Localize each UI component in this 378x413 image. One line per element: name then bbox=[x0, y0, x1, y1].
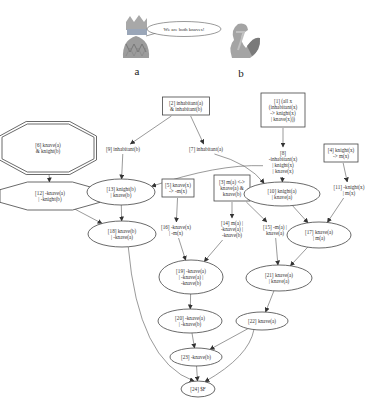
node-16: [16] -knave(x)| -m(x) bbox=[161, 224, 191, 237]
edge-n17-n21 bbox=[290, 247, 307, 266]
jester-icon bbox=[123, 15, 149, 58]
edge-n21-n22 bbox=[266, 291, 274, 312]
proof-diagram: a We are both knaves! b [1] (all x(inhab… bbox=[0, 0, 378, 413]
edge-n16-n19 bbox=[179, 238, 186, 260]
node-12: [12] -knave(a)| -knight(b) bbox=[0, 182, 100, 210]
nodes: [1] (all x(inhabitant(x)-> knight(x)| kn… bbox=[0, 93, 365, 397]
node-2: [2] inhabitant(a)& inhabitant(b) bbox=[163, 97, 210, 115]
duck-icon bbox=[230, 24, 260, 58]
edge-n12-n18 bbox=[73, 208, 102, 223]
edge-n2-n9 bbox=[130, 116, 171, 144]
node-label-line: | knave(a) bbox=[269, 278, 290, 285]
node-10: [10] knight(a)| knave(a) bbox=[244, 182, 320, 206]
node-label-line: [22] knave(a) bbox=[248, 318, 276, 325]
node-label-line: [7] inhabitant(a) bbox=[189, 146, 223, 153]
edge-n20-n23 bbox=[192, 333, 195, 348]
node-1: [1] (all x(inhabitant(x)-> knight(x)| kn… bbox=[261, 93, 305, 127]
node-label-line: | m(x) bbox=[343, 190, 356, 197]
node-8: [8]-inhabitant(x)| knight(x)| knave(x) bbox=[269, 150, 298, 176]
node-label-line: | m(a) bbox=[313, 235, 325, 242]
node-label-line: | knave(b) bbox=[111, 192, 132, 199]
edge-n15-n21 bbox=[276, 238, 278, 265]
character-a-label: a bbox=[135, 65, 140, 77]
node-21: [21] knave(a)| knave(a) bbox=[246, 265, 312, 291]
node-9: [9] inhabitant(b) bbox=[106, 146, 140, 153]
node-22: [22] knave(a) bbox=[236, 312, 288, 330]
edge-n22-n23 bbox=[210, 329, 248, 350]
node-13: [13] knight(b)| knave(b) bbox=[87, 179, 155, 205]
edge-n11-n17 bbox=[327, 198, 343, 222]
node-4: [4] knight(x)-> m(x) bbox=[324, 144, 358, 162]
edge-n14-n19 bbox=[204, 240, 222, 262]
node-label-line: & inhabitant(b) bbox=[170, 106, 202, 113]
speech-bubble-text: We are both knaves! bbox=[164, 27, 205, 32]
node-label-line: -> -m(x) bbox=[169, 188, 187, 195]
edge-n5-n16 bbox=[176, 198, 177, 222]
node-label-line: [9] inhabitant(b) bbox=[106, 146, 140, 153]
node-label-line: | knave(a) bbox=[272, 194, 293, 201]
node-label-line: knave(b) bbox=[223, 191, 242, 198]
node-6: [6] knave(a)& knight(b) bbox=[0, 122, 97, 175]
node-15: [15] -m(a) |knave(a) bbox=[263, 224, 287, 237]
edge-n10-n17 bbox=[292, 206, 308, 223]
node-label-line: | -knight(b) bbox=[38, 196, 62, 203]
edge-n9-n13 bbox=[122, 154, 123, 179]
node-5: [5] knave(x)-> -m(x) bbox=[162, 179, 194, 197]
character-b-label: b bbox=[238, 67, 244, 79]
node-label-line: | -knave(a) bbox=[111, 234, 133, 241]
node-label-line: -knave(b) bbox=[181, 280, 201, 287]
node-label-line: & knight(b) bbox=[36, 148, 61, 155]
node-label-line: | knave(x))) bbox=[271, 116, 295, 123]
edge-n23-n24 bbox=[197, 366, 198, 381]
node-17: [17] knave(a)| m(a) bbox=[287, 222, 351, 248]
node-label-line: -knave(b) bbox=[222, 232, 242, 239]
node-label-line: knave(a) bbox=[266, 230, 284, 237]
edge-n2-n7 bbox=[191, 116, 204, 144]
character-a: a bbox=[123, 15, 149, 77]
node-23: [23] -knave(b) bbox=[170, 348, 222, 366]
node-24: [24] $F bbox=[181, 381, 215, 397]
node-19: [19] -knave(a)| -knave(a) |-knave(b) bbox=[159, 260, 223, 294]
node-3: [3] m(a) <->knave(a) &knave(b) bbox=[214, 175, 250, 201]
node-18: [18] knave(b)| -knave(a) bbox=[88, 221, 156, 247]
node-label-line: [23] -knave(b) bbox=[181, 354, 211, 361]
edge-n4-n11 bbox=[343, 163, 347, 182]
node-label-line: | -m(x) bbox=[169, 230, 183, 237]
character-b: b bbox=[230, 24, 260, 79]
node-label-line: | knave(x) bbox=[273, 168, 294, 175]
node-label-line: [24] $F bbox=[190, 386, 206, 393]
node-label-line: -> m(x) bbox=[333, 153, 349, 160]
node-20: [20] -knave(a)| -knave(b) bbox=[158, 309, 222, 333]
speech-bubble: We are both knaves! bbox=[146, 22, 221, 37]
node-11: [11] -knight(x)| m(x) bbox=[334, 184, 365, 197]
edge-n3-n15 bbox=[246, 202, 266, 222]
node-7: [7] inhabitant(a) bbox=[189, 146, 223, 153]
node-label-line: | -knave(b) bbox=[179, 321, 202, 328]
node-14: [14] m(a) |-knave(a) |-knave(b) bbox=[221, 220, 243, 239]
